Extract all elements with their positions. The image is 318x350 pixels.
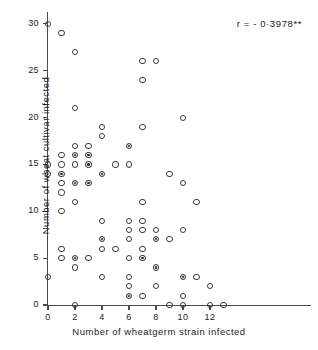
data-point (58, 189, 64, 195)
y-tick-label: 0 (17, 299, 39, 309)
x-tick-label: 8 (145, 312, 167, 322)
data-point (153, 264, 159, 270)
data-point (139, 124, 145, 130)
data-point (126, 161, 132, 167)
scatter-plot-figure: 051015202530 024681012 r = - 0·3978** Nu… (0, 0, 318, 350)
x-tick-label: 0 (37, 312, 59, 322)
data-point (72, 264, 78, 270)
y-tick-label: 5 (17, 252, 39, 262)
data-point (139, 199, 145, 205)
x-tick-label: 4 (91, 312, 113, 322)
data-point (180, 302, 186, 308)
data-point (72, 180, 78, 186)
x-tick-label: 6 (118, 312, 140, 322)
y-tick-label: 10 (17, 205, 39, 215)
data-point (99, 133, 105, 139)
data-point (153, 236, 159, 242)
data-point (166, 236, 172, 242)
data-point (126, 218, 132, 224)
data-point (207, 283, 213, 289)
data-point (180, 115, 186, 121)
data-point (72, 152, 78, 158)
data-point (126, 255, 132, 261)
data-point (139, 255, 145, 261)
data-point (112, 246, 118, 252)
data-point (166, 302, 172, 308)
data-point (139, 58, 145, 64)
data-point (139, 293, 145, 299)
data-point (72, 143, 78, 149)
data-point (58, 180, 64, 186)
data-point (85, 255, 91, 261)
data-point (58, 30, 64, 36)
data-point (112, 161, 118, 167)
x-tick-mark (101, 305, 102, 310)
data-point (58, 171, 64, 177)
data-point (99, 246, 105, 252)
x-axis-title: Number of wheatgerm strain infected (0, 326, 318, 337)
data-point (72, 255, 78, 261)
data-point (126, 274, 132, 280)
data-point (99, 124, 105, 130)
data-point (72, 49, 78, 55)
data-point (153, 283, 159, 289)
data-point (99, 274, 105, 280)
data-point (180, 274, 186, 280)
data-point (207, 302, 213, 308)
data-point (180, 227, 186, 233)
data-point (166, 171, 172, 177)
data-point (58, 161, 64, 167)
data-point (99, 171, 105, 177)
data-point (126, 227, 132, 233)
x-tick-label: 2 (64, 312, 86, 322)
data-point (139, 218, 145, 224)
x-tick-mark (47, 305, 48, 310)
y-axis-title: Number of wheat cultivar infected (40, 26, 51, 286)
data-point (72, 199, 78, 205)
data-point (58, 246, 64, 252)
y-tick-label: 30 (17, 18, 39, 28)
x-tick-mark (128, 305, 129, 310)
data-point (85, 143, 91, 149)
correlation-annotation: r = - 0·3978** (237, 18, 302, 29)
data-point (72, 105, 78, 111)
y-tick-label: 15 (17, 158, 39, 168)
data-point (126, 236, 132, 242)
data-point (85, 161, 91, 167)
data-point (139, 77, 145, 83)
x-tick-label: 10 (172, 312, 194, 322)
data-point (99, 236, 105, 242)
data-point (72, 161, 78, 167)
data-point (126, 143, 132, 149)
data-point (139, 246, 145, 252)
data-point (58, 208, 64, 214)
data-point (193, 274, 199, 280)
plot-area: 051015202530 024681012 r = - 0·3978** Nu… (0, 0, 318, 350)
data-point (72, 302, 78, 308)
y-tick-label: 25 (17, 65, 39, 75)
data-point (58, 255, 64, 261)
data-point (139, 227, 145, 233)
x-tick-label: 12 (199, 312, 221, 322)
data-point (99, 218, 105, 224)
data-point (126, 293, 132, 299)
data-point (58, 152, 64, 158)
y-tick-label: 20 (17, 112, 39, 122)
data-point (193, 199, 199, 205)
data-point (180, 180, 186, 186)
data-point (220, 302, 226, 308)
data-point (85, 180, 91, 186)
x-tick-mark (155, 305, 156, 310)
data-point (85, 152, 91, 158)
data-point (153, 227, 159, 233)
data-point (180, 293, 186, 299)
data-point (153, 58, 159, 64)
data-point (126, 283, 132, 289)
